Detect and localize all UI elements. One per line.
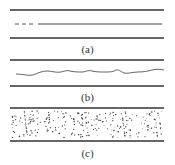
panel-a-label: (a) [0,43,175,55]
panel-b [10,60,164,86]
panel-b-wavy-line [16,69,164,75]
panel-c-label: (c) [0,147,175,159]
panel-a [10,10,164,38]
figure-canvas [0,0,175,165]
panel-b-label: (b) [0,91,175,103]
panel-c [10,108,164,141]
panel-c-particles [11,110,162,138]
